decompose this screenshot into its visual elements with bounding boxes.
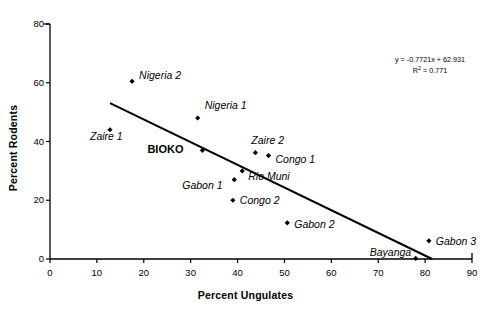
r2-value: = 0.771 — [421, 67, 447, 76]
data-point-label: Nigeria 1 — [205, 99, 247, 111]
x-tick-label-50: 50 — [271, 267, 297, 278]
y-tick-label-80: 80 — [18, 18, 44, 29]
regression-equation: y = -0.7721x + 62.931 — [382, 55, 478, 65]
y-tick-label-60: 60 — [18, 77, 44, 88]
data-point-label: Congo 1 — [276, 153, 316, 165]
data-point-label: Zaire 1 — [90, 130, 123, 142]
x-tick-label-40: 40 — [225, 267, 251, 278]
data-point-marker — [230, 198, 235, 203]
data-point-label: Gabon 1 — [182, 179, 222, 191]
data-point-label: Rio Muni — [248, 170, 289, 182]
regression-annotation: y = -0.7721x + 62.931 R2 = 0.771 — [382, 55, 478, 77]
data-point-marker — [426, 238, 431, 243]
data-point-marker — [195, 115, 200, 120]
x-axis-title: Percent Ungulates — [0, 289, 491, 301]
data-point-marker — [285, 220, 290, 225]
data-point-label: Congo 2 — [240, 194, 280, 206]
x-tick-label-20: 20 — [131, 267, 157, 278]
data-point-label: Zaire 2 — [251, 134, 284, 146]
data-point-label: Gabon 3 — [436, 235, 476, 247]
data-point-marker — [129, 79, 134, 84]
scatter-chart: Percent Rodents Percent Ungulates 020406… — [0, 0, 491, 313]
data-point-label: Bayanga — [370, 246, 411, 258]
regression-r-squared: R2 = 0.771 — [382, 65, 478, 77]
data-point-marker — [253, 150, 258, 155]
y-tick-label-40: 40 — [18, 136, 44, 147]
data-point-marker — [413, 256, 418, 261]
x-tick-label-0: 0 — [37, 267, 63, 278]
x-tick-label-30: 30 — [178, 267, 204, 278]
data-point-label: Gabon 2 — [294, 218, 334, 230]
x-tick-label-60: 60 — [318, 267, 344, 278]
data-point-marker — [266, 153, 271, 158]
x-tick-label-70: 70 — [365, 267, 391, 278]
data-point-label: BIOKO — [146, 143, 184, 155]
data-point-label: Nigeria 2 — [139, 69, 181, 81]
y-tick-label-0: 0 — [18, 253, 44, 264]
y-tick-label-20: 20 — [18, 194, 44, 205]
x-tick-label-80: 80 — [412, 267, 438, 278]
data-point-marker — [232, 177, 237, 182]
x-tick-label-90: 90 — [459, 267, 485, 278]
y-axis-title: Percent Rodents — [7, 98, 19, 198]
x-tick-label-10: 10 — [84, 267, 110, 278]
